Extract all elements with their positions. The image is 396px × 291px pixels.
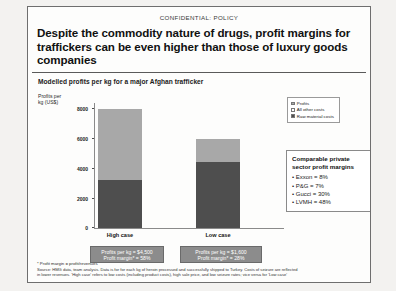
legend-swatch-raw-material-costs-icon — [291, 114, 295, 118]
comparison-item-lvmh: • LVMH = 48% — [292, 198, 368, 206]
callout-high-case-line1: Profits per kg = $4,500 — [93, 249, 161, 255]
chart-legend: Profits All other costs Raw material cos… — [287, 97, 340, 123]
legend-item-profits: Profits — [291, 101, 336, 106]
comparison-item-gucci: • Gucci = 30% — [292, 190, 368, 198]
legend-label-profits: Profits — [297, 101, 309, 106]
y-tick-6000: 6000 — [62, 136, 88, 142]
legend-label-raw-material-costs: Raw material costs — [297, 114, 334, 119]
legend-item-raw-material-costs: Raw material costs — [291, 114, 336, 119]
slide-document: CONFIDENTIAL: POLICY Despite the commodi… — [27, 6, 371, 283]
x-axis-line — [94, 228, 284, 229]
comparison-panel: Comparable private sector profit margins… — [286, 150, 371, 212]
legend-item-all-other-costs: All other costs — [291, 107, 336, 112]
y-axis-line — [94, 103, 95, 229]
title-divider — [32, 72, 366, 73]
page-title: Despite the commodity nature of drugs, p… — [37, 26, 361, 67]
y-tick-8000: 8000 — [62, 106, 88, 112]
bar-low-case-profits — [196, 139, 240, 162]
category-label-low-case: Low case — [196, 232, 240, 238]
y-tick-0: 0 — [62, 225, 88, 231]
comparison-item-exxon: • Exxon = 8% — [292, 173, 368, 181]
classification-header: CONFIDENTIAL: POLICY — [28, 14, 370, 21]
legend-swatch-all-other-costs-icon — [291, 108, 295, 112]
bar-high-case-raw-material — [98, 180, 142, 228]
legend-swatch-profits-icon — [291, 102, 295, 106]
source-line-1: Source: HMG data, team analysis. Data is… — [37, 267, 364, 272]
comparison-item-pg: • P&G = 7% — [292, 182, 368, 190]
comparison-panel-title: Comparable private sector profit margins — [292, 155, 368, 170]
legend-label-all-other-costs: All other costs — [297, 107, 325, 112]
category-label-high-case: High case — [98, 232, 142, 238]
source-line-2: in lower revenues. 'High case' refers to… — [37, 272, 364, 277]
y-tick-2000: 2000 — [62, 196, 88, 202]
chart-subtitle: Modelled profits per kg for a major Afgh… — [38, 78, 370, 85]
bar-low-case-raw-material — [196, 162, 240, 228]
y-tick-4000: 4000 — [62, 166, 88, 172]
bar-high-case-profits — [98, 109, 142, 180]
y-axis-title: Profits per kg (US$) — [38, 93, 78, 105]
y-axis-title-line2: kg (US$) — [38, 99, 78, 105]
footnotes-block: * Profit margin = profit/revenues Source… — [37, 261, 364, 277]
footnote-profit-margin: * Profit margin = profit/revenues — [37, 261, 364, 266]
